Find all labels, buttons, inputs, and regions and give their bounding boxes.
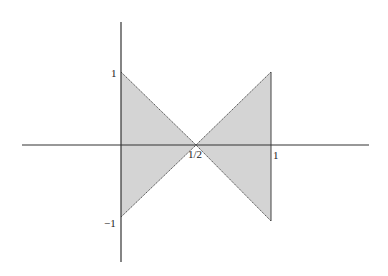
bowtie-diagram <box>0 0 388 276</box>
right-shaded-triangle <box>196 72 271 221</box>
y-label-1: 1 <box>111 68 117 79</box>
x-label-half: 1/2 <box>188 149 202 160</box>
x-label-1: 1 <box>273 150 279 161</box>
y-label-neg1: −1 <box>104 218 116 229</box>
